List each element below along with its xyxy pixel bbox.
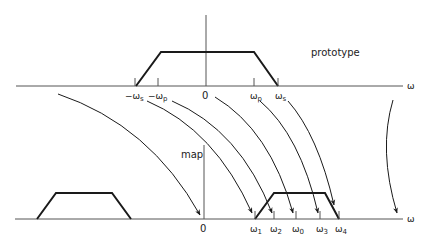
diagram-canvas: prototype ω −ωs −ωp 0 ωp ωs map ω 0 ω1 ω… [0,0,431,242]
prototype-omega-label: ω [407,81,415,91]
mapping-arrows [58,94,397,215]
tick-label-ws: ωs [275,91,287,103]
arrow-wp-to-w3 [260,101,318,213]
tick-label-neg-ws: −ωs [125,91,144,103]
prototype-label: prototype [311,47,360,58]
mapped-omega-label: ω [407,214,415,224]
prototype-panel: prototype ω −ωs −ωp 0 ωp ωs [16,15,415,103]
mapped-bandpass-response [255,193,339,219]
map-label: map [181,149,203,160]
prototype-lowpass-response [136,52,278,86]
tick-label-w4: ω4 [335,224,348,236]
arrow-neg-infinity-to-zero [58,94,200,215]
arrow-pos-infinity-to-infinity [386,100,397,213]
arrow-zero-to-w0 [215,97,293,213]
tick-label-zero-top: 0 [202,90,208,101]
tick-label-zero-bottom: 0 [200,223,206,234]
mapped-negative-band-response [37,193,131,219]
tick-label-w0: ω0 [292,224,304,236]
tick-label-w1: ω1 [250,224,262,236]
tick-label-w2: ω2 [270,224,282,236]
tick-label-w3: ω3 [316,224,328,236]
arrow-ws-to-w4 [288,101,334,205]
frequency-transformation-diagram: prototype ω −ωs −ωp 0 ωp ωs map ω 0 ω1 ω… [0,0,431,242]
mapped-panel: map ω 0 ω1 ω2 ω0 ω3 ω4 [15,145,415,236]
tick-label-neg-wp: −ωp [148,91,168,103]
